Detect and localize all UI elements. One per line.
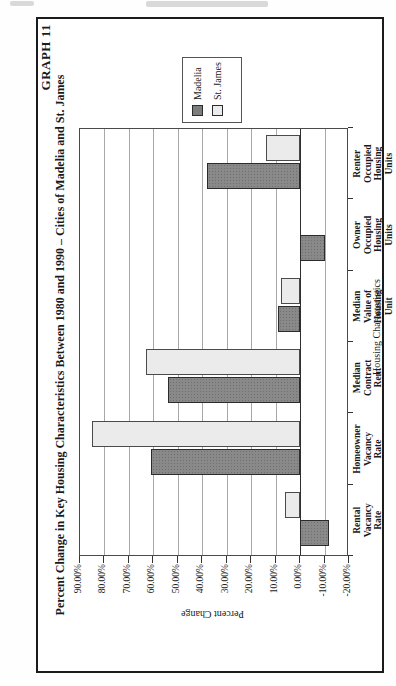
y-axis-tick-label: 40.00% <box>195 564 205 634</box>
category-label-line: Housing <box>373 128 384 199</box>
y-axis-tick <box>299 556 300 563</box>
chart-frame: GRAPH 11 Percent Change in Key Housing C… <box>36 17 384 673</box>
legend-label-madelia: Madelia <box>192 67 203 100</box>
bar-st-james-1 <box>285 492 300 518</box>
y-axis-tick-label: 70.00% <box>122 564 132 634</box>
bar-st-james-3 <box>146 349 300 375</box>
page-header-smudge-center <box>146 1 268 7</box>
plot-area <box>79 128 348 556</box>
category-label: RentalVacancyRate <box>352 485 384 556</box>
gridline <box>202 129 203 555</box>
gridline <box>276 129 277 555</box>
y-axis-tick-label: 10.00% <box>269 564 279 634</box>
y-axis-tick <box>324 556 325 563</box>
category-label-line: Contract <box>363 342 374 413</box>
category-label: MedianValue ofHousingUnit <box>352 271 394 342</box>
category-label-line: Renter <box>352 128 363 199</box>
legend-swatch-st-james <box>212 105 223 116</box>
category-label: MedianContractRent <box>352 342 384 413</box>
legend: Madelia St. James <box>182 57 242 123</box>
category-label: RenterOccupiedHousingUnits <box>352 128 394 199</box>
y-axis-tick <box>103 556 104 563</box>
page-header-smudge-left <box>10 1 34 6</box>
y-axis-tick <box>201 556 202 563</box>
legend-item-madelia: Madelia <box>192 64 203 116</box>
bar-madelia-2 <box>151 449 300 475</box>
legend-label-st-james: St. James <box>212 62 223 100</box>
y-axis-tick-label: -10.00% <box>318 564 328 634</box>
y-axis-tick-label: -20.00% <box>342 564 352 634</box>
category-label-line: Units <box>384 199 395 270</box>
y-axis-tick-label: 80.00% <box>97 564 107 634</box>
y-axis-tick-label: 50.00% <box>171 564 181 634</box>
bar-madelia-1 <box>300 520 329 546</box>
category-label-line: Housing <box>373 199 384 270</box>
y-axis-tick-label: 0.00% <box>293 564 303 634</box>
zero-gridline <box>300 129 301 555</box>
y-axis-tick <box>275 556 276 563</box>
y-axis-tick-label: 90.00% <box>73 564 83 634</box>
bar-madelia-5 <box>300 235 324 261</box>
category-label-line: Homeowner <box>352 413 363 484</box>
bar-madelia-4 <box>278 306 300 332</box>
legend-swatch-madelia <box>192 105 203 116</box>
gridline <box>227 129 228 555</box>
category-label-line: Owner <box>352 199 363 270</box>
y-axis-tick <box>79 556 80 563</box>
gridline <box>325 129 326 555</box>
y-axis-tick <box>348 556 349 563</box>
category-label-line: Median <box>352 342 363 413</box>
y-axis-tick-label: 30.00% <box>220 564 230 634</box>
category-label-line: Vacancy <box>363 413 374 484</box>
gridline <box>153 129 154 555</box>
category-label-line: Rent <box>373 342 384 413</box>
y-axis-tick <box>152 556 153 563</box>
bar-st-james-2 <box>92 421 300 447</box>
category-label: OwnerOccupiedHousingUnits <box>352 199 394 270</box>
gridline <box>104 129 105 555</box>
chart-title: GRAPH 11 <box>38 24 54 90</box>
category-label-line: Occupied <box>363 199 374 270</box>
y-axis-tick-label: 20.00% <box>244 564 254 634</box>
y-axis-tick-label: 60.00% <box>146 564 156 634</box>
scanned-report-page: GRAPH 11 Percent Change in Key Housing C… <box>0 0 396 686</box>
category-label-line: Housing <box>373 271 384 342</box>
legend-item-st-james: St. James <box>212 64 223 116</box>
chart-subtitle: Percent Change in Key Housing Characteri… <box>53 19 68 671</box>
y-axis-tick <box>128 556 129 563</box>
bar-madelia-6 <box>207 163 300 189</box>
y-axis-tick <box>226 556 227 563</box>
category-label-line: Median <box>352 271 363 342</box>
gridline <box>251 129 252 555</box>
category-label-line: Rental <box>352 485 363 556</box>
category-label-line: Value of <box>363 271 374 342</box>
category-label-line: Units <box>384 128 395 199</box>
category-label-line: Occupied <box>363 128 374 199</box>
category-label-line: Vacancy <box>363 485 374 556</box>
category-label-line: Rate <box>373 485 384 556</box>
bar-st-james-4 <box>281 278 301 304</box>
gridline <box>129 129 130 555</box>
y-axis-tick <box>177 556 178 563</box>
y-axis-tick <box>250 556 251 563</box>
gridline <box>178 129 179 555</box>
bar-st-james-6 <box>266 135 300 161</box>
category-label-line: Unit <box>384 271 395 342</box>
bar-madelia-3 <box>168 377 300 403</box>
category-label: HomeownerVacancyRate <box>352 413 384 484</box>
category-label-line: Rate <box>373 413 384 484</box>
